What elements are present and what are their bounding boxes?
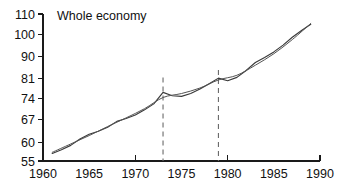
series-line-trend <box>52 23 311 152</box>
chart-title: Whole economy <box>57 9 147 23</box>
x-tick-label: 1985 <box>260 167 288 181</box>
x-axis: 1960196519701975198019851990 <box>29 155 334 181</box>
y-tick-label: 67 <box>21 113 35 127</box>
y-axis: 556067748190100110 <box>14 8 43 169</box>
x-tick-label: 1980 <box>214 167 242 181</box>
x-tick-label: 1960 <box>29 167 57 181</box>
series-line-actual <box>52 24 311 153</box>
x-tick-label: 1990 <box>306 167 334 181</box>
chart-title-group: Whole economy <box>57 9 147 23</box>
chart-container: Whole economy 556067748190100110 1960196… <box>0 0 344 196</box>
x-tick-label: 1965 <box>75 167 103 181</box>
x-tick-label: 1970 <box>121 167 149 181</box>
y-tick-label: 100 <box>14 28 35 42</box>
y-tick-label: 60 <box>21 136 35 150</box>
y-tick-label: 90 <box>21 50 35 64</box>
y-tick-label: 81 <box>21 72 35 86</box>
y-tick-label: 74 <box>21 92 35 106</box>
line-chart: Whole economy 556067748190100110 1960196… <box>0 0 344 196</box>
data-series-group <box>52 23 311 153</box>
y-tick-label: 110 <box>15 8 35 22</box>
x-tick-label: 1975 <box>168 167 196 181</box>
